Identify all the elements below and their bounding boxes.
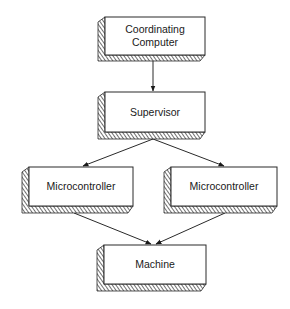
node-microcontroller-right: Microcontroller (164, 167, 277, 213)
node-label: Microcontroller (47, 180, 116, 192)
hierarchy-diagram: Coordinating Computer Supervisor Microco… (0, 0, 290, 309)
node-label: Computer (132, 36, 179, 48)
node-label: Microcontroller (190, 180, 259, 192)
node-machine: Machine (97, 245, 206, 291)
edge-microcontroller-left-to-machine (74, 213, 151, 244)
edges (74, 61, 225, 244)
node-microcontroller-left: Microcontroller (22, 167, 133, 213)
node-label: Coordinating (125, 23, 185, 35)
edge-supervisor-to-microcontroller-left (83, 139, 153, 166)
node-coordinating-computer: Coordinating Computer (98, 17, 205, 61)
edge-microcontroller-right-to-machine (156, 213, 225, 244)
node-label: Supervisor (130, 106, 181, 118)
node-label: Machine (135, 258, 175, 270)
node-supervisor: Supervisor (98, 92, 205, 139)
edge-supervisor-to-microcontroller-right (153, 139, 224, 166)
